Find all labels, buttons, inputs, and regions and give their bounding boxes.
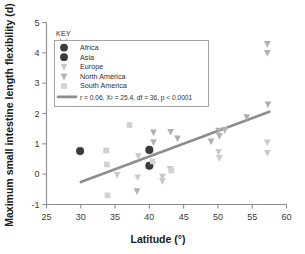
y-tick-label: 0 bbox=[34, 169, 39, 179]
data-point bbox=[264, 50, 271, 57]
legend-entry-label: Asia bbox=[80, 53, 94, 62]
y-axis-title: Maximum small intestine length flexibili… bbox=[3, 3, 15, 226]
x-tick-label: 50 bbox=[213, 212, 223, 222]
data-point bbox=[265, 102, 272, 109]
data-point bbox=[145, 146, 153, 154]
legend-entry-label: Europe bbox=[80, 62, 103, 71]
data-point bbox=[134, 188, 141, 195]
legend-entry-label: Africa bbox=[80, 43, 98, 52]
chart-figure: Maximum small intestine length flexibili… bbox=[0, 0, 305, 254]
data-point bbox=[167, 129, 174, 136]
data-point bbox=[216, 133, 223, 140]
y-tick-label: 3 bbox=[34, 78, 39, 88]
data-point bbox=[104, 162, 110, 168]
regression-fit-line bbox=[81, 112, 270, 182]
data-point bbox=[103, 148, 109, 154]
data-point bbox=[150, 129, 157, 136]
data-point bbox=[264, 139, 271, 146]
x-axis-title: Latitude (°) bbox=[131, 233, 186, 245]
data-point bbox=[168, 168, 174, 174]
x-tick-label: 25 bbox=[41, 212, 51, 222]
legend-statistics-label: r = 0.06, X² = 25.4, df = 36, p < 0.0001 bbox=[80, 94, 193, 102]
data-point bbox=[76, 147, 84, 155]
x-tick-label: 55 bbox=[247, 212, 257, 222]
legend-entry-label: South America bbox=[80, 81, 127, 90]
data-point bbox=[127, 122, 133, 128]
data-point bbox=[264, 41, 271, 48]
x-tick-label: 35 bbox=[110, 212, 120, 222]
y-tick-label: -1 bbox=[31, 200, 39, 210]
data-point bbox=[114, 172, 121, 179]
data-point bbox=[159, 178, 166, 185]
data-point bbox=[150, 159, 156, 165]
data-point bbox=[174, 136, 181, 143]
x-tick-label: 45 bbox=[179, 212, 189, 222]
x-tick-label: 60 bbox=[281, 212, 291, 222]
x-tick-label: 40 bbox=[144, 212, 154, 222]
data-point bbox=[134, 174, 141, 181]
scatter-plot-svg: Maximum small intestine length flexibili… bbox=[0, 0, 305, 254]
x-axis-ticks: 2530354045505560 bbox=[41, 205, 291, 222]
data-point bbox=[216, 155, 223, 162]
x-tick-label: 30 bbox=[76, 212, 86, 222]
legend-marker-square-icon bbox=[61, 83, 67, 89]
data-point bbox=[150, 139, 157, 146]
y-axis-ticks: -1012345 bbox=[31, 18, 46, 210]
regression-line bbox=[81, 112, 270, 182]
data-point bbox=[215, 149, 222, 156]
y-tick-label: 1 bbox=[34, 139, 39, 149]
y-tick-label: 5 bbox=[34, 18, 39, 28]
data-point bbox=[105, 193, 111, 199]
legend-marker-circle-icon bbox=[60, 44, 68, 52]
legend-marker-circle-icon bbox=[60, 53, 68, 61]
legend-entry-label: North America bbox=[80, 72, 126, 81]
legend-title: KEY bbox=[56, 30, 71, 37]
y-tick-label: 4 bbox=[34, 48, 39, 58]
data-point bbox=[264, 150, 271, 157]
y-tick-label: 2 bbox=[34, 109, 39, 119]
data-point bbox=[208, 139, 215, 146]
